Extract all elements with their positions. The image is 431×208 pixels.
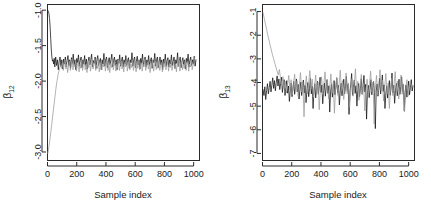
x-tick-label: 1000 bbox=[399, 169, 419, 179]
y-tick-label: -1 bbox=[249, 8, 259, 16]
x-tick-label: 600 bbox=[343, 169, 358, 179]
y-tick-label: -4 bbox=[249, 78, 259, 86]
beta12-plot-frame bbox=[48, 5, 200, 161]
y-tick-label: -1.0 bbox=[34, 2, 44, 18]
y-tick-label: -7 bbox=[249, 149, 259, 157]
beta12-x-axis: 02004006008001000 bbox=[45, 162, 204, 179]
x-tick-label: 600 bbox=[128, 169, 143, 179]
x-tick-label: 1000 bbox=[184, 169, 204, 179]
x-tick-label: 800 bbox=[372, 169, 387, 179]
beta13-svg: β13 -1-2-3-4-5-6-7 02004006008001000 Sam… bbox=[215, 0, 431, 208]
y-tick-label: -1.5 bbox=[34, 38, 44, 54]
beta12-svg: β12 -1.0-1.5-2.0-2.5-3.0 020040060080010… bbox=[0, 0, 215, 208]
beta12-ylabel-group: β12 bbox=[2, 85, 15, 98]
x-tick-label: 800 bbox=[157, 169, 172, 179]
x-tick-label: 400 bbox=[313, 169, 328, 179]
y-tick-label: -3.0 bbox=[34, 144, 44, 160]
beta12-y-axis: -1.0-1.5-2.0-2.5-3.0 bbox=[34, 2, 47, 159]
beta13-xlabel: Sample index bbox=[309, 189, 367, 200]
trace-plot-beta12: β12 -1.0-1.5-2.0-2.5-3.0 020040060080010… bbox=[0, 0, 215, 208]
beta12-xlabel: Sample index bbox=[94, 189, 152, 200]
y-tick-label: -2.0 bbox=[34, 73, 44, 89]
trace-line-chain-1 bbox=[48, 10, 196, 70]
beta13-y-axis: -1-2-3-4-5-6-7 bbox=[249, 8, 262, 158]
beta13-ylabel-group: β13 bbox=[218, 85, 231, 98]
y-tick-label: -2 bbox=[249, 31, 259, 39]
figure-root: β12 -1.0-1.5-2.0-2.5-3.0 020040060080010… bbox=[0, 0, 431, 208]
x-tick-label: 200 bbox=[284, 169, 299, 179]
x-tick-label: 0 bbox=[45, 169, 50, 179]
y-tick-label: -3 bbox=[249, 55, 259, 63]
y-tick-label: -5 bbox=[249, 102, 259, 110]
x-tick-label: 200 bbox=[69, 169, 84, 179]
trace-line-chain-2 bbox=[48, 57, 195, 153]
x-tick-label: 400 bbox=[98, 169, 113, 179]
trace-line-chain-2 bbox=[263, 13, 412, 124]
trace-plot-beta13: β13 -1-2-3-4-5-6-7 02004006008001000 Sam… bbox=[215, 0, 430, 208]
y-tick-label: -6 bbox=[249, 126, 259, 134]
y-tick-label: -2.5 bbox=[34, 109, 44, 125]
beta13-x-axis: 02004006008001000 bbox=[260, 162, 419, 179]
beta12-ylabel: β12 bbox=[2, 85, 15, 98]
beta13-traces bbox=[263, 13, 413, 129]
beta13-ylabel: β13 bbox=[218, 85, 231, 98]
beta12-traces bbox=[48, 10, 196, 153]
x-tick-label: 0 bbox=[260, 169, 265, 179]
